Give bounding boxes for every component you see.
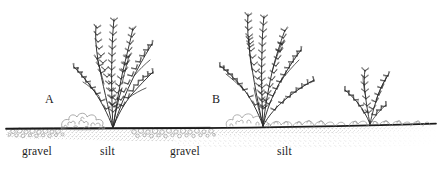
panel-b-vegetation <box>217 12 430 127</box>
panel-label-b: B <box>212 93 220 105</box>
plant-b-main <box>220 14 314 126</box>
substrate-label-gravel-right: gravel <box>170 146 200 158</box>
plant-b-leaflets <box>217 12 315 111</box>
substrate-layer <box>6 124 436 148</box>
moss-clump-a <box>61 113 105 130</box>
figure-illustration: A B gravel silt gravel silt <box>0 0 440 169</box>
plant-b-secondary-leaflets <box>343 67 391 117</box>
aquatic-plants-substrate-drawing <box>0 0 440 169</box>
substrate-label-silt-right: silt <box>277 146 292 158</box>
substrate-label-silt-left: silt <box>100 146 115 158</box>
panel-label-a: A <box>45 93 54 105</box>
plant-b-secondary <box>345 70 388 124</box>
panel-a-vegetation <box>61 18 155 130</box>
substrate-label-gravel-left: gravel <box>22 146 52 158</box>
